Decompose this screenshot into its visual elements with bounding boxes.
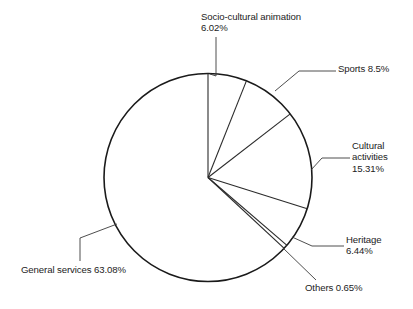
pie-chart-figure: Socio-cultural animation 6.02% Sports 8.…	[0, 0, 413, 309]
leader-line-general	[80, 224, 117, 261]
leader-line-cultural	[311, 158, 350, 170]
leader-line-others	[283, 248, 316, 280]
pie-label-heritage: Heritage 6.44%	[346, 234, 412, 257]
leader-line-sports	[275, 71, 336, 91]
pie-label-general-services: General services 63.08%	[21, 264, 171, 275]
leader-line-heritage	[292, 237, 344, 246]
pie-label-cultural-activities: Cultural activities 15.31%	[352, 140, 412, 174]
pie-label-socio-cultural-animation: Socio-cultural animation 6.02%	[201, 11, 336, 34]
pie-label-sports: Sports 8.5%	[338, 63, 412, 74]
pie-label-others: Others 0.65%	[305, 282, 401, 293]
